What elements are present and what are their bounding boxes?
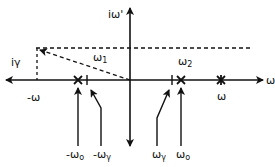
omega1-subscript: 1 bbox=[102, 56, 107, 65]
omega-star-label: ω bbox=[217, 91, 226, 102]
omega0-subscript: o bbox=[185, 153, 190, 162]
neg-omega-gamma-label: -ωγ bbox=[93, 149, 111, 162]
omega0-label: ωo bbox=[176, 149, 190, 162]
real-axis-label: ω bbox=[266, 75, 275, 86]
neg-omega0-symbol: -ω bbox=[66, 148, 79, 161]
neg-omega0-label: -ωo bbox=[66, 149, 84, 162]
omega1-symbol: ω bbox=[93, 51, 102, 64]
pointer-omega-gamma bbox=[157, 90, 169, 146]
omega1-dashed-vector bbox=[40, 50, 130, 80]
omega-gamma-label: ωγ bbox=[152, 149, 166, 162]
omega1-label: ω1 bbox=[93, 52, 107, 65]
omega2-subscript: 2 bbox=[187, 60, 192, 69]
omega2-symbol: ω bbox=[178, 55, 187, 68]
omega0-symbol: ω bbox=[176, 148, 185, 161]
neg-omega-gamma-symbol: -ω bbox=[93, 148, 106, 161]
neg-omega0-subscript: o bbox=[79, 153, 84, 162]
neg-omega-label: -ω bbox=[27, 92, 40, 103]
pointer-neg-omega-gamma bbox=[91, 90, 101, 146]
diagram-graphics bbox=[0, 0, 275, 167]
omega-gamma-subscript: γ bbox=[161, 153, 166, 162]
omega2-label: ω2 bbox=[178, 56, 192, 69]
i-gamma-label: iγ bbox=[11, 57, 21, 68]
imag-axis-label: iω' bbox=[108, 9, 123, 20]
diagram-canvas: iω' ω iγ -ω ω1 ω2 ω -ωo -ωγ ωγ ωo bbox=[0, 0, 275, 167]
neg-omega-gamma-subscript: γ bbox=[106, 153, 111, 162]
omega-gamma-symbol: ω bbox=[152, 148, 161, 161]
